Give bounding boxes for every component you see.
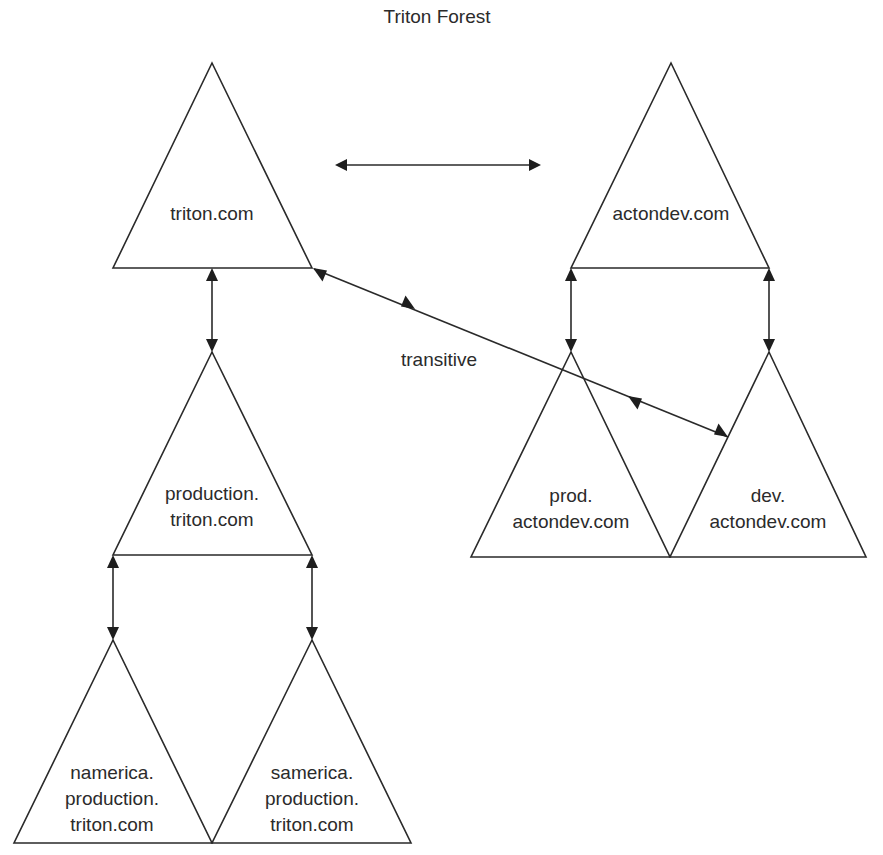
- triton-forest-diagram: Triton Forest triton.com actondev.com pr…: [0, 0, 883, 855]
- trust-arrow-production-samerica: [306, 555, 318, 640]
- domain-label-line-2: production.: [65, 788, 159, 809]
- transitive-label: transitive: [401, 349, 477, 370]
- arrowhead-icon: [714, 423, 728, 437]
- domain-prod-actondev-com: prod. actondev.com: [471, 352, 670, 557]
- domain-label-line-1: namerica.: [70, 762, 153, 783]
- arrowhead-icon: [628, 396, 642, 410]
- arrowhead-down-icon: [206, 339, 218, 352]
- trust-arrow-actondev-dev: [763, 268, 775, 352]
- domain-label-line-3: triton.com: [70, 814, 153, 835]
- domain-label: triton.com: [170, 203, 253, 224]
- arrowhead-left-icon: [335, 159, 347, 171]
- trust-arrow-production-namerica: [107, 555, 119, 640]
- arrowhead-up-icon: [306, 555, 318, 568]
- arrowhead-up-icon: [107, 555, 119, 568]
- domain-label-line-2: actondev.com: [710, 511, 827, 532]
- domain-label-line-1: dev.: [751, 485, 786, 506]
- domain-label-line-2: production.: [265, 788, 359, 809]
- arrowhead-down-icon: [763, 339, 775, 352]
- domain-label: actondev.com: [613, 203, 730, 224]
- triangle-icon: [571, 63, 769, 268]
- transitive-trust-arrow: [313, 268, 728, 437]
- arrowhead-icon: [401, 295, 415, 309]
- arrowhead-right-icon: [529, 159, 541, 171]
- trust-arrow-triton-production: [206, 268, 218, 352]
- domain-samerica-production-triton-com: samerica. production. triton.com: [212, 640, 411, 843]
- domain-label-line-2: triton.com: [170, 509, 253, 530]
- domain-label-line-3: triton.com: [270, 814, 353, 835]
- domain-label-line-2: actondev.com: [513, 511, 630, 532]
- domain-actondev-com: actondev.com: [571, 63, 769, 268]
- diagram-title: Triton Forest: [384, 6, 492, 27]
- domain-label-line-1: samerica.: [271, 762, 353, 783]
- arrowhead-down-icon: [107, 627, 119, 640]
- arrowhead-up-icon: [763, 268, 775, 281]
- domain-label-line-1: production.: [165, 483, 259, 504]
- arrowhead-icon: [313, 268, 327, 282]
- arrowhead-down-icon: [306, 627, 318, 640]
- trust-arrow-triton-actondev: [335, 159, 541, 171]
- triangle-icon: [113, 63, 312, 268]
- domain-production-triton-com: production. triton.com: [113, 352, 312, 555]
- domain-namerica-production-triton-com: namerica. production. triton.com: [14, 640, 212, 843]
- arrowhead-up-icon: [565, 268, 577, 281]
- arrowhead-down-icon: [565, 339, 577, 352]
- triangle-icon: [212, 640, 411, 843]
- trust-arrow-actondev-prod: [565, 268, 577, 352]
- domain-dev-actondev-com: dev. actondev.com: [670, 352, 866, 557]
- triangle-icon: [14, 640, 212, 843]
- domain-triton-com: triton.com: [113, 63, 312, 268]
- domain-label-line-1: prod.: [549, 485, 592, 506]
- arrowhead-up-icon: [206, 268, 218, 281]
